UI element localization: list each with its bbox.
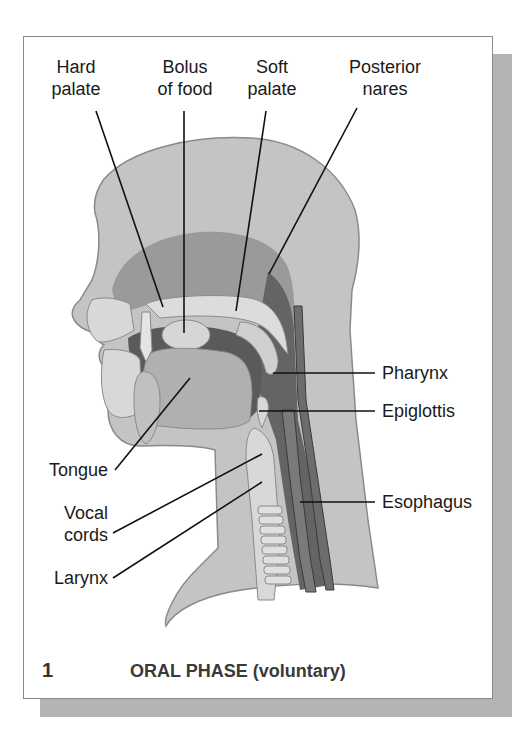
label-larynx: Larynx	[30, 567, 108, 589]
label-vocal-cords: Vocal cords	[30, 502, 108, 546]
label-posterior-nares: Posterior nares	[340, 56, 430, 100]
label-esophagus: Esophagus	[382, 491, 472, 513]
label-tongue: Tongue	[30, 459, 108, 481]
label-pharynx: Pharynx	[382, 362, 448, 384]
label-bolus-of-food: Bolus of food	[146, 56, 224, 100]
label-hard-palate: Hard palate	[44, 56, 108, 100]
label-epiglottis: Epiglottis	[382, 400, 455, 422]
bolus-of-food-shape	[162, 320, 210, 350]
figure-number: 1	[42, 659, 53, 682]
figure-caption: ORAL PHASE (voluntary)	[130, 661, 346, 682]
label-soft-palate: Soft palate	[240, 56, 304, 100]
